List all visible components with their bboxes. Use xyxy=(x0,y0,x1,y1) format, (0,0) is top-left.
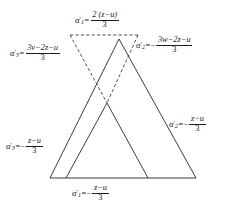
label-alpha-2-prime-lower-right: α′2=−z−u3 xyxy=(169,115,206,134)
label-alpha-2-prime-upper-right: α′2=−3w−2z−u3 xyxy=(136,36,192,55)
fraction: 3v−2z−u3 xyxy=(26,44,60,63)
fraction: 3w−2z−u3 xyxy=(156,36,192,55)
label-alpha-3-prime-lower-left: α′3=−z−u3 xyxy=(6,137,43,156)
equation-alpha-3-prime-lower-left: α′3=−z−u3 xyxy=(6,137,43,156)
dashed-left-edge xyxy=(70,35,107,103)
equation-alpha-3-prime-upper-left: α′3=3v−2z−u3 xyxy=(10,44,60,63)
equation-alpha-1-prime-top: α′1=2 (z−u)3 xyxy=(75,11,119,30)
fraction: z−u3 xyxy=(26,137,42,156)
inner-left-edge xyxy=(66,103,107,178)
fraction: z−u3 xyxy=(92,184,108,203)
denominator: 3 xyxy=(156,46,192,55)
equation-alpha-2-prime-lower-right: α′2=−z−u3 xyxy=(169,115,206,134)
inner-solid-triangle-group xyxy=(66,103,148,178)
outer-right-edge xyxy=(119,39,196,178)
relation-sign: = xyxy=(84,16,90,25)
denominator: 3 xyxy=(92,194,108,203)
outer-solid-triangle-group xyxy=(50,39,196,178)
inner-right-edge xyxy=(107,103,148,178)
relation-sign: = xyxy=(81,189,87,198)
equation-alpha-1-prime-bottom: α′1=−z−u3 xyxy=(72,184,109,203)
outer-left-edge xyxy=(50,39,119,178)
label-alpha-1-prime-top: α′1=2 (z−u)3 xyxy=(75,11,119,30)
denominator: 3 xyxy=(26,147,42,156)
equation-alpha-2-prime-upper-right: α′2=−3w−2z−u3 xyxy=(136,36,192,55)
fraction: 2 (z−u)3 xyxy=(91,11,119,30)
relation-sign: = xyxy=(145,41,151,50)
denominator: 3 xyxy=(26,54,60,63)
relation-sign: = xyxy=(15,142,21,151)
relation-sign: = xyxy=(178,120,184,129)
denominator: 3 xyxy=(189,125,205,134)
label-alpha-1-prime-bottom: α′1=−z−u3 xyxy=(72,184,109,203)
fraction: z−u3 xyxy=(189,115,205,134)
relation-sign: = xyxy=(19,49,25,58)
triangle-diagram xyxy=(0,0,232,211)
denominator: 3 xyxy=(91,21,119,30)
figure-canvas: α′1=2 (z−u)3 α′2=−3w−2z−u3 α′3=3v−2z−u3 … xyxy=(0,0,232,211)
label-alpha-3-prime-upper-left: α′3=3v−2z−u3 xyxy=(10,44,60,63)
